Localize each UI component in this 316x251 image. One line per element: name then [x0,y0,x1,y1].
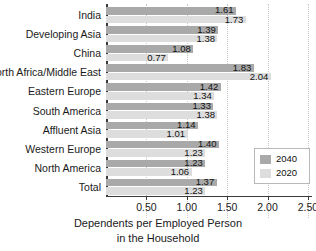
x-tick-mark [187,196,188,200]
bar-value-label: 1.08 [172,44,191,54]
category-label: North Africa/Middle East [0,63,101,82]
category-label: China [74,44,101,63]
bar-2040 [106,64,254,72]
bar-group: 1.421.34 [106,82,312,101]
legend-swatch [260,169,271,178]
legend-swatch [260,155,271,164]
x-axis-title: Dependents per Employed Person in the Ho… [0,216,316,245]
bar-value-label: 2.04 [250,72,269,82]
bar-group: 1.611.73 [106,6,312,25]
x-tick-label: 1.50 [207,201,247,213]
bar-value-label: 1.01 [167,129,186,139]
bar-value-label: 1.06 [171,167,190,177]
legend-item: 2040 [260,153,304,165]
category-label: Eastern Europe [28,82,101,101]
x-tick-mark [227,196,228,200]
bar-value-label: 1.83 [233,63,252,73]
x-axis-title-line-1: Dependents per Employed Person [0,216,316,231]
bar-value-label: 1.73 [225,15,244,25]
x-axis-title-line-2: in the Household [0,231,316,246]
horizontal-bar-chart: IndiaDeveloping AsiaChinaNorth Africa/Mi… [0,0,316,251]
x-tick-label: 2.50 [288,201,316,213]
category-label: Western Europe [25,140,101,159]
x-tick-mark [146,196,147,200]
legend-label: 2020 [276,168,297,178]
bar-group: 1.141.01 [106,121,312,140]
legend-item: 2020 [260,167,304,179]
x-tick-label: 2.00 [248,201,288,213]
category-label: Affluent Asia [43,121,101,140]
category-label: North America [34,159,101,178]
category-axis: IndiaDeveloping AsiaChinaNorth Africa/Mi… [0,6,104,197]
chart-legend: 20402020 [254,148,310,184]
x-tick-label: 0.50 [126,201,166,213]
x-axis-line [106,196,312,197]
category-label: India [78,6,101,25]
category-label: South America [33,102,101,121]
category-label: Total [79,178,101,197]
x-tick-mark [268,196,269,200]
category-label: Developing Asia [26,25,101,44]
bar-2020 [106,73,271,81]
x-tick-mark [308,196,309,200]
legend-label: 2040 [276,154,297,164]
bar-group: 1.080.77 [106,44,312,63]
bar-value-label: 1.38 [196,110,215,120]
bar-group: 1.331.38 [106,102,312,121]
bar-group: 1.832.04 [106,63,312,82]
bar-value-label: 0.77 [147,53,166,63]
x-tick-label: 1.00 [167,201,207,213]
bar-value-label: 1.38 [196,34,215,44]
bar-group: 1.391.38 [106,25,312,44]
bar-value-label: 1.23 [184,186,203,196]
